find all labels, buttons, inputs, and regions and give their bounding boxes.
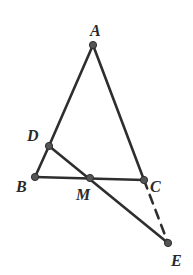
label-c: C — [150, 178, 161, 195]
label-d: D — [26, 127, 39, 144]
segments — [35, 45, 168, 243]
points — [31, 41, 171, 246]
point-m — [86, 174, 93, 181]
geometry-diagram: A B C D M E — [0, 0, 193, 275]
segment-ad — [49, 45, 93, 146]
segment-ac — [93, 45, 144, 180]
point-d — [45, 142, 52, 149]
label-b: B — [15, 178, 27, 195]
point-e — [164, 239, 171, 246]
label-a: A — [89, 22, 101, 39]
label-m: M — [75, 186, 91, 203]
segment-db — [35, 146, 49, 177]
point-b — [31, 173, 38, 180]
point-a — [89, 41, 96, 48]
label-e: E — [170, 252, 182, 269]
point-c — [140, 176, 147, 183]
